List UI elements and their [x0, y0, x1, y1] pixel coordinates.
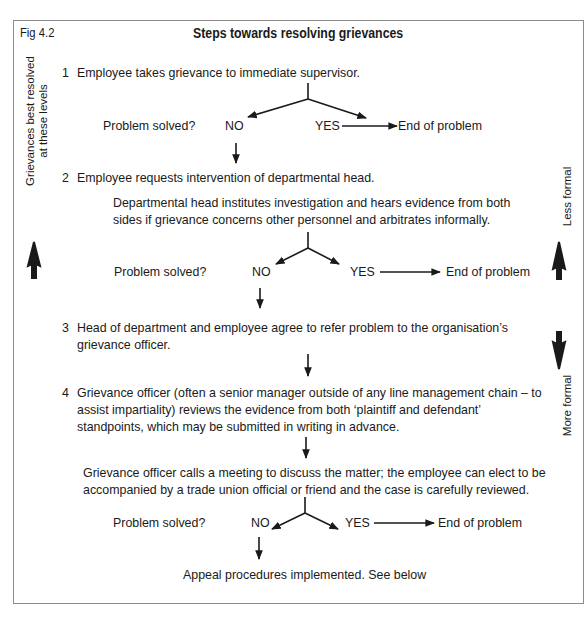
flow-connectors	[0, 0, 586, 618]
branch-arrow-3	[272, 497, 338, 529]
down-arrow-icon-right	[553, 332, 565, 369]
up-arrow-icon-left	[28, 242, 40, 278]
branch-arrow-2	[276, 232, 339, 264]
up-arrow-icon-right	[553, 242, 565, 279]
branch-arrow-1	[248, 83, 366, 118]
